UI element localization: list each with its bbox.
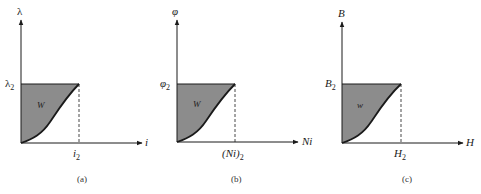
panel-a bbox=[21, 20, 142, 143]
x-axis-label-b: Ni bbox=[302, 136, 312, 147]
y-level-label-b: φ2 bbox=[160, 78, 170, 92]
y-axis-label-c: B bbox=[338, 8, 345, 19]
y-level-label-a: λ2 bbox=[5, 78, 14, 92]
y-level-sub-a: 2 bbox=[10, 83, 14, 92]
x-level-sub-b: 2 bbox=[240, 153, 244, 162]
y-axis-label-b: φ bbox=[172, 6, 178, 17]
y-level-label-c: B2 bbox=[325, 78, 336, 92]
y-axis-label-a: λ bbox=[17, 6, 22, 17]
x-axis-label-a: i bbox=[145, 137, 148, 148]
energy-diagrams bbox=[0, 0, 481, 194]
x-level-label-a: i2 bbox=[73, 148, 80, 162]
caption-c: (c) bbox=[402, 175, 412, 184]
y-level-sub-b: 2 bbox=[166, 83, 170, 92]
y-level-symbol-c: B bbox=[325, 77, 332, 89]
area-label-b: W bbox=[193, 99, 201, 109]
x-level-label-b: (Ni)2 bbox=[222, 148, 244, 162]
x-level-symbol-c: H bbox=[394, 147, 402, 159]
x-level-sub-c: 2 bbox=[402, 153, 406, 162]
panel-c bbox=[342, 22, 463, 143]
area-label-a: W bbox=[37, 100, 45, 110]
x-level-sub-a: 2 bbox=[76, 153, 80, 162]
area-label-c: w bbox=[357, 100, 363, 110]
x-axis-label-c: H bbox=[466, 137, 474, 148]
x-level-symbol-b: (Ni) bbox=[222, 147, 240, 159]
caption-b: (b) bbox=[231, 175, 242, 184]
y-level-sub-c: 2 bbox=[332, 83, 336, 92]
caption-a: (a) bbox=[77, 175, 87, 184]
x-level-label-c: H2 bbox=[394, 148, 406, 162]
panel-b bbox=[177, 20, 298, 142]
